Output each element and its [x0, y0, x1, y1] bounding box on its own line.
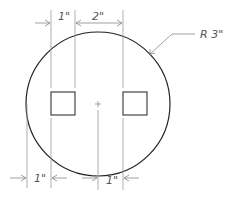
- technical-drawing: 1" 2" R 3" 1" 1": [0, 0, 232, 198]
- right-square: [123, 92, 147, 115]
- radius-label: R 3": [200, 28, 223, 41]
- center-mark-icon: [95, 101, 101, 107]
- bottom-left-dimension-label: 1": [34, 172, 46, 185]
- radius-leader-arrow: [150, 34, 195, 54]
- top-spacing-dimension-label: 2": [92, 10, 104, 23]
- left-square: [51, 92, 75, 115]
- top-left-dimension-arrow: [35, 20, 50, 26]
- bottom-right-dimension-label: 1": [106, 174, 118, 187]
- top-left-dimension-label: 1": [58, 10, 70, 23]
